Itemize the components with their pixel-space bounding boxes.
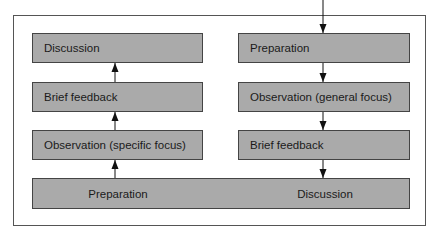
arrow-down-icon [320,112,327,130]
arrow-down-icon [320,160,327,178]
arrow-up-icon [112,63,119,82]
flow-arrows [0,0,439,239]
arrow-down-icon [320,63,327,82]
arrow-up-icon [112,112,119,130]
arrow-up-icon [112,160,119,178]
arrow-down-icon [320,0,327,33]
